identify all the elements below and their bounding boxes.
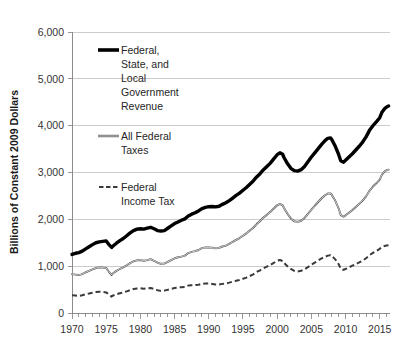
y-tick-label: 4,000 — [38, 119, 64, 131]
legend-label-federal-income-tax-line-2: Income Tax — [121, 195, 175, 207]
x-tick-label: 1980 — [129, 323, 153, 335]
legend-label-all-federal-taxes-line-2: Taxes — [121, 144, 148, 156]
legend-label-government-revenue-line-3: Local — [121, 72, 146, 84]
y-tick-label: 1,000 — [38, 260, 64, 272]
x-tick-label: 1975 — [95, 323, 119, 335]
y-tick-label: 3,000 — [38, 166, 64, 178]
x-tick-label: 1970 — [60, 323, 84, 335]
x-tick-label: 2010 — [334, 323, 358, 335]
y-axis-title: Billions of Constant 2009 Dollars — [8, 90, 20, 254]
legend-label-government-revenue-line-1: Federal, — [121, 44, 160, 56]
legend-label-federal-income-tax-line-1: Federal — [121, 181, 157, 193]
x-tick-label: 2015 — [368, 323, 392, 335]
x-tick-label: 2000 — [265, 323, 289, 335]
x-tick-label: 1990 — [197, 323, 221, 335]
legend-label-all-federal-taxes-line-1: All Federal — [121, 130, 171, 142]
y-tick-label: 5,000 — [38, 73, 64, 85]
x-tick-label: 1985 — [163, 323, 187, 335]
revenue-line-chart: 01,0002,0003,0004,0005,0006,000 19701975… — [0, 0, 400, 353]
x-tick-label: 1995 — [231, 323, 255, 335]
chart-container: 01,0002,0003,0004,0005,0006,000 19701975… — [0, 0, 400, 353]
y-tick-label: 2,000 — [38, 213, 64, 225]
y-tick-label: 0 — [58, 307, 64, 319]
x-tick-label: 2005 — [300, 323, 324, 335]
legend-label-government-revenue-line-5: Revenue — [121, 100, 163, 112]
y-tick-label: 6,000 — [38, 26, 64, 38]
legend-label-government-revenue-line-2: State, and — [121, 58, 169, 70]
legend-label-government-revenue-line-4: Government — [121, 86, 179, 98]
